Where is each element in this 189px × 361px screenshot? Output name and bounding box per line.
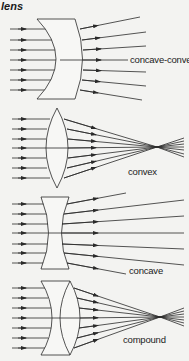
label-convex: convex (127, 166, 158, 177)
diverging-rays (62, 193, 184, 274)
incoming-rays (12, 204, 50, 263)
incoming-rays (12, 119, 50, 178)
label-concave-convex: concave-convex (129, 54, 189, 65)
concave-convex-lens (37, 19, 83, 99)
concave-group (12, 193, 184, 274)
diverging-rays (160, 308, 184, 326)
convex-group (12, 108, 184, 188)
diverging-rays (157, 138, 184, 157)
incoming-rays (12, 288, 52, 348)
label-compound: compound (122, 334, 167, 345)
label-concave: concave (128, 265, 164, 276)
concave-convex-group (10, 17, 146, 100)
